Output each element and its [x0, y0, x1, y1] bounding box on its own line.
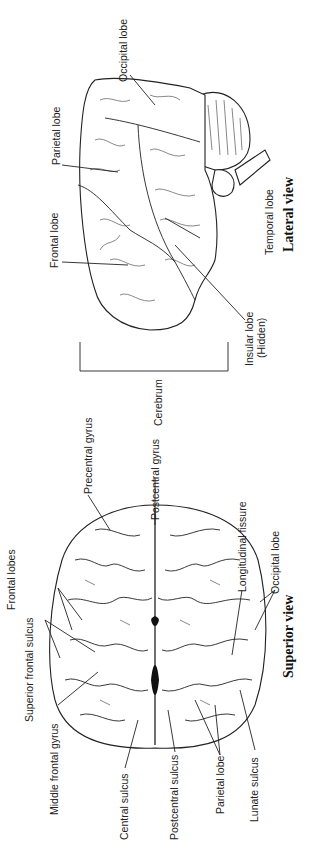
label-longitudinal-fissure: Longitudinal fissure — [236, 501, 248, 592]
cerebrum-superior — [50, 505, 266, 748]
label-temporal-lobe: Temporal lobe — [263, 189, 275, 255]
label-postcentral-gyrus: Postcentral gyrus — [149, 439, 161, 520]
pons — [212, 170, 234, 196]
label-cerebrum: Cerebrum — [152, 379, 164, 426]
label-parietal-lobe-lateral: Parietal lobe — [50, 106, 62, 165]
superior-view-title: Superior view — [281, 594, 296, 678]
superior-view-brain — [50, 505, 266, 748]
label-precentral-gyrus: Precentral gyrus — [82, 418, 94, 494]
label-occipital-lobe-lateral: Occipital lobe — [117, 19, 129, 82]
lateral-view-brain — [78, 78, 270, 330]
label-occipital-lobe-superior: Occipital lobe — [269, 531, 281, 594]
label-postcentral-sulcus: Postcentral sulcus — [168, 755, 180, 840]
label-middle-frontal-gyrus: Middle frontal gyrus — [48, 723, 60, 815]
label-parietal-lobe-superior: Parietal lobe — [214, 755, 226, 814]
brain-diagram: Occipital lobe Parietal lobe Frontal lob… — [0, 0, 310, 851]
label-lunate-sulcus: Lunate sulcus — [248, 757, 260, 822]
lateral-view-title: Lateral view — [281, 176, 296, 252]
cerebellum — [200, 92, 250, 170]
label-central-sulcus: Central sulcus — [118, 773, 130, 840]
label-insular-lobe: Insular lobe — [243, 312, 255, 366]
label-insular-hidden: (Hidden) — [255, 318, 267, 358]
label-frontal-lobe-lateral: Frontal lobe — [48, 212, 60, 268]
cerebrum-lateral — [80, 78, 217, 330]
cerebrum-bracket — [80, 342, 228, 371]
label-superior-frontal-sulcus: Superior frontal sulcus — [23, 618, 35, 722]
label-frontal-lobes: Frontal lobes — [5, 549, 17, 610]
